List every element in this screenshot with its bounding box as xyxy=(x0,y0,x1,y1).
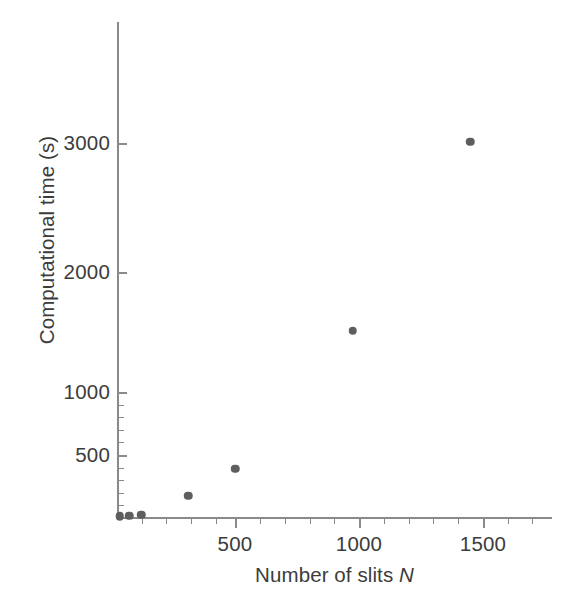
data-point xyxy=(116,512,125,521)
data-point xyxy=(466,137,475,146)
x-tick-minor xyxy=(166,518,167,524)
x-tick-1000 xyxy=(359,518,361,528)
x-tick-label-500: 500 xyxy=(190,532,280,556)
x-tick-minor xyxy=(384,518,385,524)
x-axis-title-text: Number of slits xyxy=(255,563,399,586)
x-tick-minor xyxy=(216,518,217,524)
data-point xyxy=(184,492,193,501)
data-point xyxy=(348,327,357,336)
y-tick-minor xyxy=(118,480,124,481)
x-tick-label-1500: 1500 xyxy=(438,532,528,556)
data-point xyxy=(137,510,146,519)
y-tick-minor xyxy=(118,468,124,469)
y-tick-minor xyxy=(118,505,124,506)
x-tick-minor xyxy=(334,518,335,524)
y-tick-3000 xyxy=(118,143,127,145)
x-tick-1500 xyxy=(483,518,485,528)
y-axis-title: Computational time (s) xyxy=(35,75,59,405)
x-tick-minor xyxy=(310,518,311,524)
x-tick-label-1000: 1000 xyxy=(314,532,404,556)
y-tick-label-500: 500 xyxy=(34,443,110,467)
y-tick-minor xyxy=(118,417,124,418)
y-tick-500 xyxy=(118,455,127,457)
y-tick-minor xyxy=(118,493,124,494)
data-point xyxy=(125,512,134,521)
x-axis-title: Number of slits N xyxy=(117,563,552,587)
x-tick-minor xyxy=(409,518,410,524)
x-tick-minor xyxy=(508,518,509,524)
x-tick-minor xyxy=(142,518,143,524)
x-tick-minor xyxy=(260,518,261,524)
y-tick-minor xyxy=(118,430,124,431)
scatter-plot-figure: 3000 2000 1000 500 500 1000 1500 Computa… xyxy=(0,0,568,601)
x-tick-minor xyxy=(458,518,459,524)
y-tick-2000 xyxy=(118,272,127,274)
y-tick-minor xyxy=(118,405,124,406)
y-tick-minor xyxy=(118,442,124,443)
x-axis-title-symbol: N xyxy=(399,563,414,586)
y-tick-1000 xyxy=(118,392,127,394)
x-tick-minor xyxy=(532,518,533,524)
x-tick-minor xyxy=(191,518,192,524)
data-point xyxy=(231,464,240,473)
x-tick-minor xyxy=(285,518,286,524)
x-tick-minor xyxy=(433,518,434,524)
x-tick-500 xyxy=(235,518,237,528)
y-axis-line xyxy=(117,22,119,519)
